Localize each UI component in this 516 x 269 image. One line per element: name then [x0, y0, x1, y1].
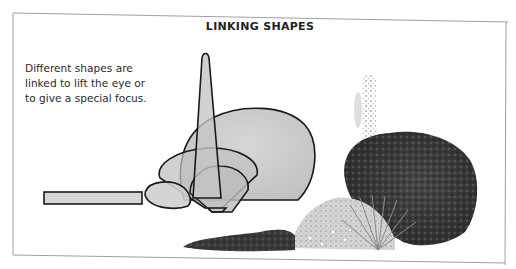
illustration-caption: Different shapes are linked to lift the … — [25, 61, 155, 106]
illustration-title: LINKING SHAPES — [0, 20, 516, 33]
horizontal-bar-shape — [44, 192, 142, 204]
illustration-frame: LINKING SHAPES Different shapes are link… — [0, 0, 516, 269]
linking-shapes-diagram — [0, 0, 516, 269]
